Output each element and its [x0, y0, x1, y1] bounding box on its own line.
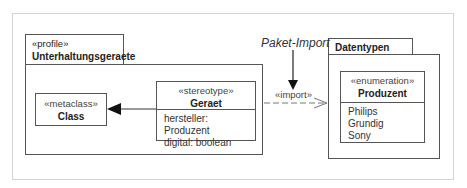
extension-arrowhead-icon [107, 103, 121, 115]
annotation-arrowhead-icon [288, 80, 298, 90]
connectors-layer [0, 0, 467, 188]
